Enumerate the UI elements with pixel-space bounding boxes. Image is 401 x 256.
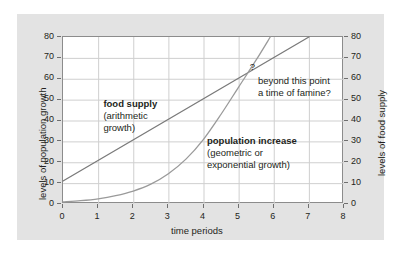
left-tick-label: 20 bbox=[28, 157, 54, 166]
population-increase-label-header: population increase bbox=[207, 135, 297, 147]
x-tick-mark bbox=[343, 204, 344, 208]
right-tick-mark bbox=[344, 161, 348, 162]
right-tick-mark bbox=[344, 57, 348, 58]
left-tick-label: 30 bbox=[28, 136, 54, 145]
x-tick-mark bbox=[62, 204, 63, 208]
left-tick-label: 50 bbox=[28, 94, 54, 103]
right-tick-mark bbox=[344, 182, 348, 183]
food-supply-label: food supply(arithmeticgrowth) bbox=[103, 98, 157, 134]
x-tick-mark bbox=[167, 204, 168, 208]
x-axis-title: time periods bbox=[171, 226, 223, 236]
left-tick-mark bbox=[57, 161, 61, 162]
left-tick-label: 80 bbox=[28, 32, 54, 41]
left-tick-label: 70 bbox=[28, 52, 54, 61]
left-tick-label: 10 bbox=[28, 178, 54, 187]
x-tick-label: 3 bbox=[157, 212, 177, 221]
left-tick-mark bbox=[57, 78, 61, 79]
x-tick-label: 0 bbox=[52, 212, 72, 221]
left-tick-label: 0 bbox=[28, 199, 54, 208]
left-tick-label: 60 bbox=[28, 73, 54, 82]
x-tick-label: 5 bbox=[228, 212, 248, 221]
right-tick-mark bbox=[344, 99, 348, 100]
right-tick-mark bbox=[344, 203, 348, 204]
famine-note-line-1: beyond this point bbox=[258, 75, 331, 87]
left-tick-mark bbox=[57, 36, 61, 37]
right-tick-label: 0 bbox=[351, 199, 356, 208]
right-tick-mark bbox=[344, 120, 348, 121]
population-increase-label-line-2: exponential growth) bbox=[207, 159, 297, 171]
plot-area: food supply(arithmeticgrowth)population … bbox=[62, 36, 343, 203]
x-tick-label: 7 bbox=[298, 212, 318, 221]
right-tick-label: 60 bbox=[351, 73, 361, 82]
left-tick-mark bbox=[57, 99, 61, 100]
right-tick-label: 10 bbox=[351, 178, 361, 187]
right-tick-mark bbox=[344, 36, 348, 37]
population-increase-label: population increase(geometric orexponent… bbox=[207, 135, 297, 171]
x-tick-mark bbox=[308, 204, 309, 208]
food-supply-label-line-1: (arithmetic bbox=[103, 110, 157, 122]
x-tick-label: 2 bbox=[122, 212, 142, 221]
population-increase-label-line-1: (geometric or bbox=[207, 147, 297, 159]
famine-note: beyond this pointa time of famine? bbox=[258, 75, 331, 99]
right-tick-label: 50 bbox=[351, 94, 361, 103]
figure-root: levels of population growth levels of fo… bbox=[0, 0, 401, 256]
question-mark-marker: ? bbox=[250, 62, 255, 72]
left-tick-label: 40 bbox=[28, 115, 54, 124]
x-tick-mark bbox=[97, 204, 98, 208]
right-tick-mark bbox=[344, 78, 348, 79]
x-tick-mark bbox=[273, 204, 274, 208]
x-tick-mark bbox=[203, 204, 204, 208]
right-tick-label: 70 bbox=[351, 52, 361, 61]
x-tick-mark bbox=[238, 204, 239, 208]
x-tick-label: 4 bbox=[193, 212, 213, 221]
left-tick-mark bbox=[57, 57, 61, 58]
right-tick-label: 80 bbox=[351, 32, 361, 41]
x-tick-label: 1 bbox=[87, 212, 107, 221]
right-tick-mark bbox=[344, 140, 348, 141]
food-supply-label-header: food supply bbox=[103, 98, 157, 110]
food-supply-label-line-2: growth) bbox=[103, 122, 157, 134]
x-tick-label: 6 bbox=[263, 212, 283, 221]
x-tick-label: 8 bbox=[333, 212, 353, 221]
left-tick-mark bbox=[57, 140, 61, 141]
right-axis-title: levels of food supply bbox=[377, 90, 387, 176]
left-tick-mark bbox=[57, 182, 61, 183]
right-tick-label: 20 bbox=[351, 157, 361, 166]
right-tick-label: 40 bbox=[351, 115, 361, 124]
left-tick-mark bbox=[57, 203, 61, 204]
x-tick-mark bbox=[132, 204, 133, 208]
left-tick-mark bbox=[57, 120, 61, 121]
famine-note-line-2: a time of famine? bbox=[258, 87, 331, 99]
right-tick-label: 30 bbox=[351, 136, 361, 145]
